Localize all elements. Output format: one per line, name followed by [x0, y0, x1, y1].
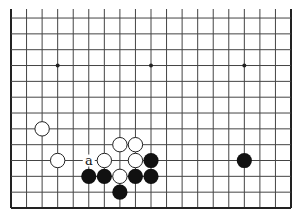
point-label: a	[85, 153, 93, 168]
black-stone-icon	[97, 169, 112, 184]
black-stone-icon	[143, 169, 158, 184]
star-point-icon	[56, 64, 60, 68]
white-stone-icon	[128, 153, 142, 167]
white-stone-icon	[113, 137, 127, 151]
black-stone-icon	[81, 169, 96, 184]
white-stone-icon	[97, 153, 111, 167]
white-stone-icon	[128, 137, 142, 151]
board-labels: a	[83, 153, 95, 168]
black-stone-icon	[237, 153, 252, 168]
white-stone-icon	[113, 169, 127, 183]
black-stone-icon	[128, 169, 143, 184]
white-stone-icon	[35, 122, 49, 136]
star-point-icon	[242, 64, 246, 68]
black-stone-icon	[112, 185, 127, 200]
star-point-icon	[149, 64, 153, 68]
black-stone-icon	[143, 153, 158, 168]
white-stone-icon	[50, 153, 64, 167]
go-board: a	[0, 0, 300, 220]
